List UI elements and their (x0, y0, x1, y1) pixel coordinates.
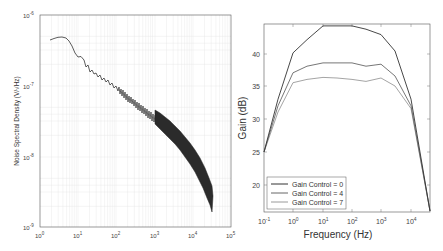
left-y-axis-label: Noise Spectral Density (V/√Hz) (13, 76, 21, 166)
right-x-axis-label: Frequency (Hz) (304, 229, 373, 240)
svg-text:35: 35 (252, 83, 260, 90)
legend-item-gain-4: Gain Control = 4 (292, 190, 343, 197)
right-y-axis: 40 35 30 25 20 Gain (dB) (237, 51, 260, 189)
svg-text:100: 100 (288, 216, 299, 225)
legend-item-gain-7: Gain Control = 7 (292, 199, 343, 206)
svg-text:103: 103 (150, 231, 160, 239)
legend: Gain Control = 0 Gain Control = 4 Gain C… (267, 177, 346, 209)
noise-density-chart: 10-6 10-7 10-8 10-9 Noise Spectral Densi… (13, 11, 236, 239)
left-x-axis: 100 101 102 103 104 105 (35, 231, 236, 239)
svg-text:105: 105 (226, 231, 236, 239)
svg-text:25: 25 (252, 149, 260, 156)
right-y-axis-label: Gain (dB) (237, 97, 248, 140)
svg-text:10-1: 10-1 (258, 216, 270, 225)
svg-text:101: 101 (73, 231, 83, 239)
svg-text:30: 30 (252, 116, 260, 123)
svg-text:10-8: 10-8 (23, 153, 34, 161)
legend-item-gain-0: Gain Control = 0 (292, 181, 343, 188)
figure: 10-6 10-7 10-8 10-9 Noise Spectral Densi… (0, 0, 443, 251)
svg-text:101: 101 (318, 216, 329, 225)
svg-text:20: 20 (252, 182, 260, 189)
svg-text:104: 104 (188, 231, 198, 239)
right-x-axis: 10-1 100 101 102 103 104 Frequency (Hz) (258, 216, 417, 240)
svg-text:10-9: 10-9 (23, 223, 34, 231)
svg-text:10-7: 10-7 (23, 82, 34, 90)
left-grid (40, 15, 231, 227)
svg-text:10-6: 10-6 (23, 11, 34, 19)
svg-text:102: 102 (111, 231, 121, 239)
svg-text:102: 102 (347, 216, 358, 225)
svg-text:40: 40 (252, 51, 260, 58)
gain-chart: 40 35 30 25 20 Gain (dB) 10-1 100 101 10… (237, 24, 430, 240)
svg-text:103: 103 (376, 216, 387, 225)
svg-text:104: 104 (406, 216, 417, 225)
left-y-axis: 10-6 10-7 10-8 10-9 Noise Spectral Densi… (13, 11, 34, 231)
svg-text:100: 100 (35, 231, 45, 239)
